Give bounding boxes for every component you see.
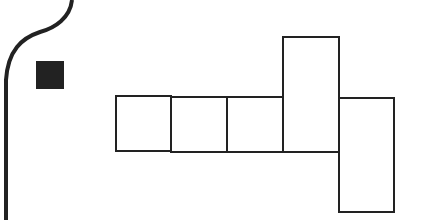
face-5 <box>339 98 394 212</box>
cube-net-diagram <box>0 0 433 220</box>
face-1 <box>116 96 171 151</box>
page-edge-curve <box>6 0 72 220</box>
filled-square-marker <box>36 61 64 89</box>
face-4 <box>283 37 339 152</box>
face-3 <box>227 97 283 152</box>
net-faces <box>116 37 394 212</box>
face-2 <box>171 97 227 152</box>
